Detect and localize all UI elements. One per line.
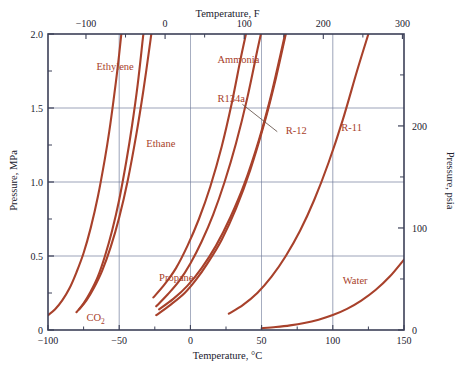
r134a-label: R134a	[217, 93, 244, 104]
curve-propane	[153, 34, 246, 297]
xtick-label-bottom: 150	[397, 335, 412, 346]
curve-ethane	[79, 34, 151, 309]
water-label: Water	[343, 275, 368, 286]
xtick-label-top: 100	[237, 18, 252, 29]
ytick-label-left: 1.0	[31, 177, 44, 188]
xtick-label-top: 200	[316, 18, 331, 29]
ytick-label-left: 0.5	[31, 251, 44, 262]
xtick-label-top: 300	[395, 18, 410, 29]
leader-line-r134a	[242, 104, 277, 131]
xtick-label-bottom: 0	[188, 335, 193, 346]
curve-co2	[48, 34, 121, 315]
co2-label: CO2	[86, 312, 104, 326]
xtick-label-top: −100	[76, 18, 97, 29]
xtick-label-bottom: −50	[111, 335, 127, 346]
curve-r-12	[159, 34, 285, 309]
r11-label: R-11	[341, 122, 362, 133]
propane-label: Propane	[159, 272, 193, 283]
ytick-label-right: 200	[412, 120, 427, 131]
chart-figure: Temperature, F Temperature, °C Pressure,…	[0, 0, 455, 369]
ethane-label: Ethane	[146, 138, 175, 149]
xtick-label-bottom: 100	[325, 335, 340, 346]
ytick-label-left: 2.0	[31, 29, 44, 40]
curve-ethylene	[76, 34, 143, 312]
ytick-label-left: 1.5	[31, 103, 44, 114]
xtick-label-bottom: 50	[257, 335, 267, 346]
ethylene-label: Ethylene	[96, 61, 133, 72]
ytick-label-right: 100	[412, 222, 427, 233]
xtick-label-bottom: −100	[38, 335, 59, 346]
ammonia-label: Ammonia	[217, 54, 259, 65]
ytick-label-left: 0	[38, 325, 43, 336]
r12-label: R-12	[286, 125, 307, 136]
xtick-label-top: 0	[163, 18, 168, 29]
ytick-label-right: 0	[412, 325, 417, 336]
curve-ammonia	[156, 34, 261, 306]
